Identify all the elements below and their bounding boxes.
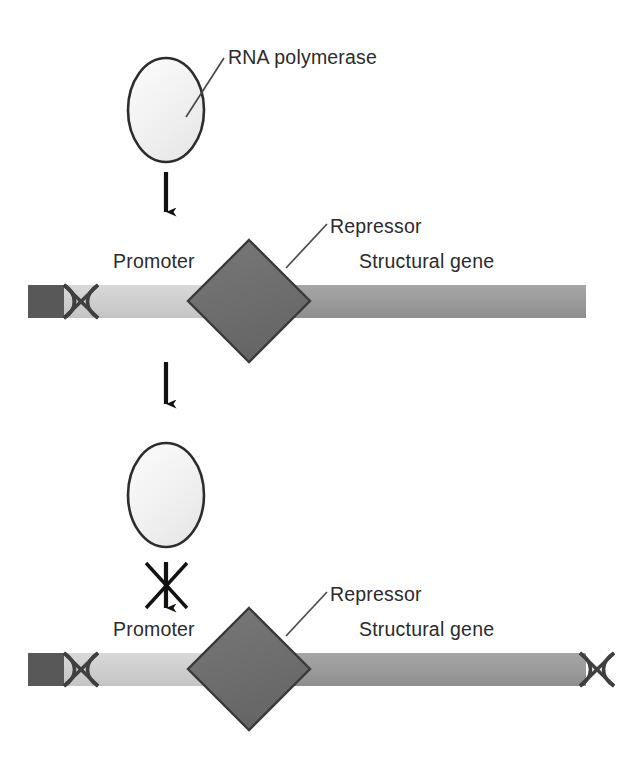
diagram-canvas xyxy=(0,0,635,775)
repressor-diamond-bottom xyxy=(188,608,310,730)
blocked-arrow xyxy=(146,562,187,608)
gene-regulation-diagram: RNA polymerase Repressor Promoter Struct… xyxy=(0,0,635,775)
operator-block-top xyxy=(28,285,64,318)
label-repressor-bottom: Repressor xyxy=(330,583,422,606)
repressor-diamond-top xyxy=(188,240,310,362)
label-rna-polymerase: RNA polymerase xyxy=(228,46,377,69)
leader-line-repressor-bottom xyxy=(286,592,327,636)
label-structural-gene-bottom: Structural gene xyxy=(359,618,494,641)
panel-top xyxy=(28,58,586,404)
label-repressor-top: Repressor xyxy=(330,215,422,238)
label-promoter-bottom: Promoter xyxy=(113,618,195,641)
panel-bottom xyxy=(28,443,614,730)
label-structural-gene-top: Structural gene xyxy=(359,250,494,273)
operator-block-bottom xyxy=(28,653,64,686)
rna-polymerase-ellipse-top xyxy=(128,58,204,162)
leader-line-repressor-top xyxy=(286,224,327,268)
rna-polymerase-ellipse-bottom xyxy=(128,443,204,547)
label-promoter-top: Promoter xyxy=(113,250,195,273)
